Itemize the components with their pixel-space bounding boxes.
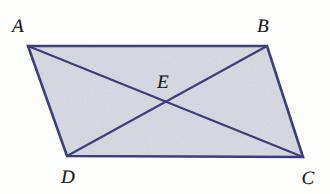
geometry-figure: A B E D C (0, 0, 330, 194)
vertex-label-b: B (257, 17, 269, 36)
vertex-label-c: C (302, 169, 315, 188)
vertex-label-a: A (12, 17, 24, 36)
vertex-label-e: E (157, 73, 169, 92)
vertex-label-d: D (61, 168, 75, 187)
parallelogram-diagram-svg (0, 0, 330, 194)
